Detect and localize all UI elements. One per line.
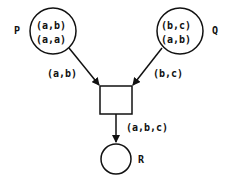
- arc-p-to-transition: [69, 48, 99, 85]
- place-q: Q (b,c) (a,b): [157, 8, 218, 54]
- place-p-token-1: (a,b): [36, 20, 66, 31]
- arc-p-label: (a,b): [47, 68, 77, 79]
- arc-q-to-transition: [133, 48, 162, 85]
- place-r-label: R: [138, 154, 145, 165]
- place-q-circle: [157, 8, 203, 54]
- transition-box: [100, 86, 132, 114]
- petri-net-diagram: P (a,b) (a,a) Q (b,c) (a,b) (a,b) (b,c) …: [0, 0, 232, 188]
- place-p-label: P: [14, 25, 20, 36]
- arc-q-label: (b,c): [153, 68, 183, 79]
- place-q-token-1: (b,c): [161, 20, 191, 31]
- place-r-circle: [101, 144, 131, 174]
- arc-r-label: (a,b,c): [126, 122, 168, 133]
- place-q-label: Q: [212, 25, 218, 36]
- place-p-token-2: (a,a): [36, 34, 66, 45]
- place-p-circle: [30, 8, 76, 54]
- place-q-token-2: (a,b): [161, 34, 191, 45]
- place-p: P (a,b) (a,a): [14, 8, 76, 54]
- place-r: R: [101, 144, 145, 174]
